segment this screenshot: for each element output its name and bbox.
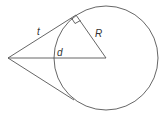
- tangent-label: t: [37, 26, 41, 37]
- radius-label: R: [95, 28, 102, 39]
- tangent-diagram: t R d: [0, 0, 164, 117]
- lower-tangent-line: [8, 58, 74, 100]
- upper-tangent-line: [8, 15, 76, 58]
- distance-label: d: [57, 47, 63, 58]
